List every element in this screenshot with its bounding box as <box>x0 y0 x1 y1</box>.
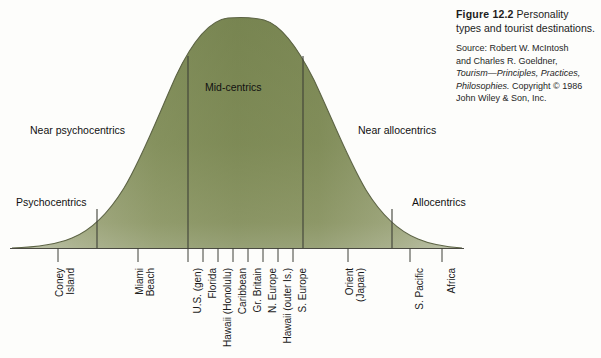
tick-label-s-pacific: S. Pacific <box>414 268 425 310</box>
tick-label-orient-line1: Orient <box>344 268 355 295</box>
zone-label-near-allocentrics: Near allocentrics <box>358 124 436 136</box>
tick-label-caribbean: Caribbean <box>237 268 248 314</box>
zone-label-mid-centrics: Mid-centrics <box>205 81 262 93</box>
tick-label-gr-britain: Gr. Britain <box>252 268 263 312</box>
caption-title: Figure 12.2 Personality types and touris… <box>456 8 596 35</box>
tick-label-africa: Africa <box>446 268 457 294</box>
zone-label-allocentrics: Allocentrics <box>412 196 466 208</box>
source-line-5: John Wiley & Son, Inc. <box>456 93 547 103</box>
tick-label-hawaii-outer-is: Hawaii (outer Is.) <box>282 268 293 344</box>
tick-label-n-europe: N. Europe <box>267 268 278 313</box>
source-line-1: Source: Robert W. McIntosh <box>456 43 569 53</box>
source-line-3: Tourism—Principles, Practices, <box>456 68 580 78</box>
zone-label-near-psychocentrics: Near psychocentrics <box>30 124 125 136</box>
zone-label-psychocentrics: Psychocentrics <box>16 196 87 208</box>
x-axis-ticks <box>58 248 442 262</box>
tick-label-coney-island-line1: Coney <box>54 268 65 297</box>
tick-label-miami-beach-line2: Beach <box>145 268 156 296</box>
figure-caption: Figure 12.2 Personality types and touris… <box>456 8 596 105</box>
caption-source: Source: Robert W. McIntosh and Charles R… <box>456 42 596 105</box>
tick-label-us-gen: U.S. (gen) <box>192 268 203 314</box>
tick-label-orient-line2: (Japan) <box>355 268 366 302</box>
tick-label-florida: Florida <box>207 268 218 299</box>
source-line-4-italic: Philosophies. <box>456 81 510 91</box>
figure-number: Figure 12.2 <box>456 8 514 20</box>
source-line-2: and Charles R. Goeldner, <box>456 56 558 66</box>
tick-label-miami-beach-line1: Miami <box>134 268 145 295</box>
tick-label-hawaii-honolulu: Hawaii (Honolulu) <box>222 268 233 347</box>
source-line-4-rest: Copyright © 1986 <box>510 81 583 91</box>
tick-label-s-europe: S. Europe <box>297 268 308 312</box>
figure-page: Near psychocentrics Psychocentrics Mid-c… <box>0 0 601 358</box>
tick-label-coney-island-line2: Island <box>65 268 76 295</box>
